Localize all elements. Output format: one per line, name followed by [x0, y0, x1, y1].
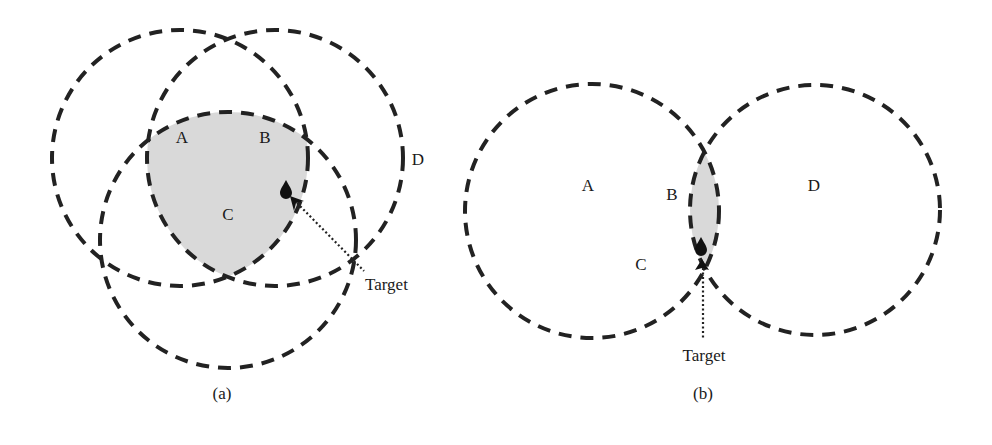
- label-b-A: A: [582, 176, 595, 195]
- caption-b: (b): [693, 384, 713, 403]
- target-label-a: Target: [365, 275, 408, 294]
- label-a-B: B: [259, 128, 270, 147]
- caption-a: (a): [213, 384, 232, 403]
- circle-b-right: [690, 85, 940, 335]
- target-label-b: Target: [683, 346, 726, 365]
- label-a-D: D: [412, 150, 424, 169]
- panel-b: A B C D Target (b): [465, 84, 940, 403]
- label-a-A: A: [176, 128, 189, 147]
- circle-b-left: [465, 84, 719, 338]
- panel-a: A B C D Target (a): [52, 30, 424, 403]
- label-b-B: B: [666, 185, 677, 204]
- label-b-D: D: [808, 176, 820, 195]
- localization-figure: A B C D Target (a) A B C D Target (b): [0, 0, 992, 445]
- label-a-C: C: [222, 205, 233, 224]
- label-b-C: C: [635, 255, 646, 274]
